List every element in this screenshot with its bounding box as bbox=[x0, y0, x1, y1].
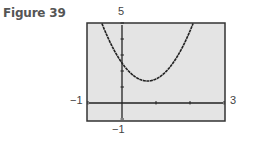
graphing-calculator-plot bbox=[0, 0, 253, 151]
xmin-label: −1 bbox=[70, 95, 83, 106]
ymin-label: −1 bbox=[112, 124, 125, 135]
ymax-label: 5 bbox=[118, 6, 124, 17]
xmax-label: 3 bbox=[230, 95, 236, 106]
